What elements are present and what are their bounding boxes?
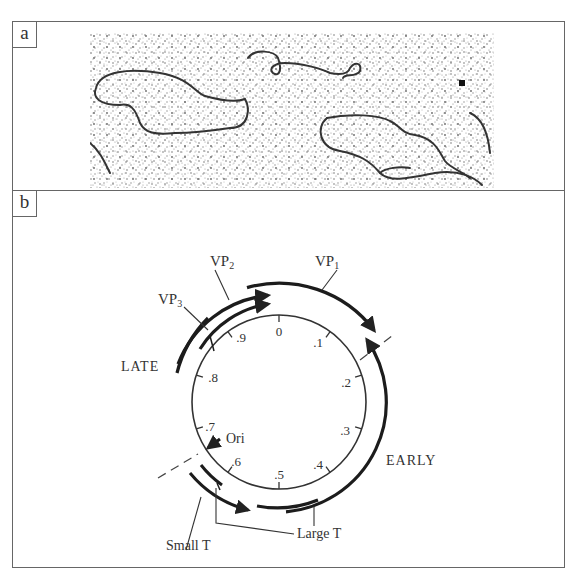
tick-label-0.4: .4 — [313, 457, 323, 472]
vp2-label: VP2 — [210, 253, 234, 271]
ori-label: Ori — [226, 431, 245, 446]
genome-circle — [192, 315, 366, 489]
vp3-label: VP3 — [158, 291, 182, 309]
tick-label-0.6: .6 — [231, 454, 241, 469]
large-t-leader-1 — [216, 488, 294, 534]
vp1-arc — [247, 283, 374, 330]
tick-label-0.8: .8 — [208, 370, 218, 385]
small-t-label: Small T — [166, 538, 211, 553]
tick-label-0: 0 — [276, 324, 283, 339]
tick-label-0.7: .7 — [205, 419, 215, 434]
tick-label-0.9: .9 — [236, 330, 246, 345]
vp3-leader — [184, 307, 208, 330]
tick-label-0.3: .3 — [340, 423, 350, 438]
vp1-leader — [322, 270, 337, 290]
tick-label-0.2: .2 — [341, 375, 351, 390]
map-ticks — [196, 315, 361, 489]
ori-arrow — [208, 439, 220, 448]
vp3-arc — [200, 304, 268, 349]
large-t-label: Large T — [297, 526, 342, 541]
vp2-leader — [215, 270, 229, 300]
vp1-label: VP1 — [315, 253, 339, 271]
early-region-label: EARLY — [386, 453, 436, 468]
boundary-line-upper — [360, 333, 396, 360]
genome-map: 0 .1 .2 .3 .4 .5 .6 .7 .8 .9 Ori — [0, 0, 580, 584]
late-region-label: LATE — [121, 359, 159, 374]
tick-label-0.1: .1 — [313, 335, 323, 350]
small-t-inner-arc — [201, 465, 222, 485]
tick-label-0.5: .5 — [274, 467, 284, 482]
